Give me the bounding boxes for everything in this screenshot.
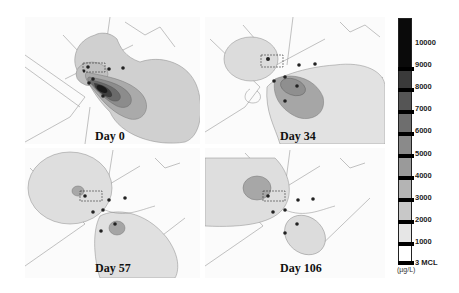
colorbar-label-4000: 4000 bbox=[415, 172, 432, 180]
colorbar-band-6000-7000 bbox=[399, 112, 411, 134]
panel-label-day-0: Day 0 bbox=[95, 129, 125, 144]
colorbar-band-8000-9000 bbox=[399, 69, 411, 90]
colorbar-label-1000: 1000 bbox=[415, 238, 432, 246]
colorbar-tick-1000 bbox=[398, 242, 414, 246]
plume-map-day-34 bbox=[205, 17, 385, 144]
colorbar-band-1000-2000 bbox=[399, 222, 411, 244]
panel-day-34: Day 34 bbox=[205, 17, 385, 144]
colorbar-band-2000-3000 bbox=[399, 200, 411, 222]
colorbar-label-6000: 6000 bbox=[415, 127, 432, 135]
colorbar-label-7000: 7000 bbox=[415, 105, 432, 113]
panel-label-day-34: Day 34 bbox=[280, 129, 316, 144]
colorbar-label-3000: 3000 bbox=[415, 194, 432, 202]
panel-day-106: Day 106 bbox=[205, 148, 385, 278]
colorbar-band-5000-6000 bbox=[399, 134, 411, 156]
panel-day-57: Day 57 bbox=[25, 148, 200, 278]
colorbar-tick-9000 bbox=[398, 67, 414, 71]
colorbar-tick-3000 bbox=[398, 198, 414, 202]
colorbar-label-10000: 10000 bbox=[415, 39, 436, 47]
colorbar-tick-mcl bbox=[398, 261, 414, 265]
colorbar-tick-6000 bbox=[398, 132, 414, 136]
colorbar-tick-8000 bbox=[398, 88, 414, 92]
colorbar-label-5000: 5000 bbox=[415, 150, 432, 158]
colorbar-label-mcl: 3 MCL bbox=[415, 259, 438, 267]
colorbar-tick-7000 bbox=[398, 110, 414, 114]
panel-label-day-57: Day 57 bbox=[95, 261, 131, 276]
colorbar-label-9000: 9000 bbox=[415, 61, 432, 69]
colorbar-band-4000-5000 bbox=[399, 156, 411, 178]
colorbar-tick-5000 bbox=[398, 154, 414, 158]
plume-map-day-57 bbox=[25, 148, 200, 278]
plume-map-day-106 bbox=[205, 148, 385, 278]
colorbar-band-9000-11000 bbox=[399, 19, 411, 69]
colorbar-unit-label: (µg/L) bbox=[397, 266, 415, 273]
panel-label-day-106: Day 106 bbox=[280, 261, 322, 276]
colorbar bbox=[398, 18, 412, 264]
colorbar-tick-2000 bbox=[398, 220, 414, 224]
panel-day-0: Day 0 bbox=[25, 17, 200, 144]
colorbar-label-8000: 8000 bbox=[415, 83, 432, 91]
colorbar-label-2000: 2000 bbox=[415, 216, 432, 224]
colorbar-band-7000-8000 bbox=[399, 90, 411, 112]
plume-map-day-0 bbox=[25, 17, 200, 144]
colorbar-tick-4000 bbox=[398, 176, 414, 180]
colorbar-band-3000-4000 bbox=[399, 178, 411, 200]
